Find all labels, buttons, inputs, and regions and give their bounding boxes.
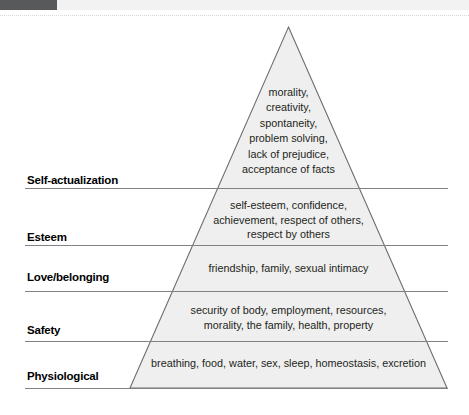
tier-content-line: problem solving, [218,131,359,146]
tier-content-line: lack of prejudice, [218,147,359,162]
tier-content-line: self-esteem, confidence, [190,198,387,213]
tier-content-line: friendship, family, sexual intimacy [170,261,407,276]
tier-label-physiological: Physiological [27,370,99,382]
tier-content-line: spontaneity, [218,116,359,131]
tier-content-line: acceptance of facts [218,162,359,177]
tier-label-self-actualization: Self-actualization [27,174,118,186]
tier-content-line: breathing, food, water, sex, sleep, home… [133,356,444,371]
tier-content-safety: security of body, employment, resources,… [150,303,427,332]
tier-content-line: respect by others [190,227,387,242]
tier-content-self-actualization: morality, creativity, spontaneity, probl… [218,85,359,177]
tier-label-love-belonging: Love/belonging [27,271,109,283]
tier-content-line: morality, [218,85,359,100]
tier-content-love-belonging: friendship, family, sexual intimacy [170,261,407,276]
tier-content-line: security of body, employment, resources, [150,303,427,318]
diagram-canvas: Self-actualization Esteem Love/belonging… [0,0,469,415]
tier-label-esteem: Esteem [27,231,67,243]
tier-content-line: creativity, [218,100,359,115]
tier-content-esteem: self-esteem, confidence, achievement, re… [190,198,387,242]
tier-content-line: achievement, respect of others, [190,213,387,228]
tier-label-safety: Safety [27,324,60,336]
tier-content-line: morality, the family, health, property [150,318,427,333]
tier-content-physiological: breathing, food, water, sex, sleep, home… [133,356,444,371]
